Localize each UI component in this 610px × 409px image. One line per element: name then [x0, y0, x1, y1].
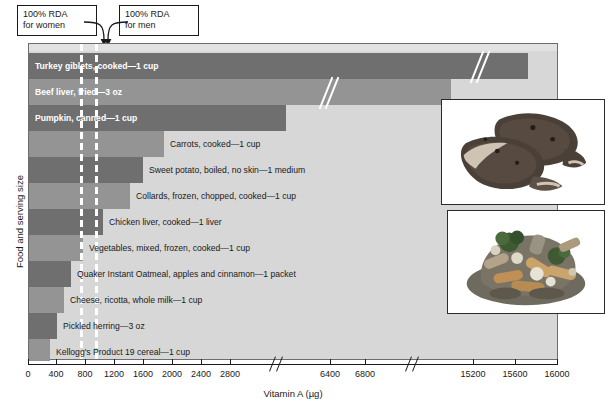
- rda-callout-men-line1: 100% RDA: [125, 9, 193, 20]
- plot-top-strip: [29, 44, 557, 51]
- x-tick-label-1600: 1600: [133, 369, 153, 379]
- bar-label-pickled-herring: Pickled herring—3 oz: [63, 321, 145, 331]
- x-tick-6400: [330, 359, 331, 364]
- x-tick-1600: [143, 359, 144, 364]
- y-axis-title: Food and serving size: [14, 175, 25, 268]
- x-axis-line: [28, 364, 558, 365]
- bar-label-collards: Collards, frozen, chopped, cooked—1 cup: [136, 191, 296, 201]
- bar-label-quaker-instant-oatmeal: Quaker Instant Oatmeal, apples and cinna…: [77, 269, 296, 279]
- vitamin-a-bar-chart-figure: 100% RDA for women 100% RDA for men: [0, 0, 610, 409]
- mixed-vegetables-photo: [447, 210, 605, 314]
- x-tick-label-16000: 16000: [544, 369, 569, 379]
- x-tick-label-6400: 6400: [320, 369, 340, 379]
- x-tick-label-2400: 2400: [191, 369, 211, 379]
- rda-arrow-men: [100, 16, 130, 46]
- x-tick-label-400: 400: [48, 369, 63, 379]
- bar-label-sweet-potato: Sweet potato, boiled, no skin—1 medium: [149, 165, 305, 175]
- bar-sweet-potato: [29, 157, 143, 183]
- liver-photo-image: [442, 100, 604, 204]
- x-tick-1200: [114, 359, 115, 364]
- x-tick-label-15600: 15600: [502, 369, 527, 379]
- x-tick-400: [56, 359, 57, 364]
- x-tick-2800: [230, 359, 231, 364]
- bar-label-product-19-cereal: Kellogg's Product 19 cereal—1 cup: [56, 347, 190, 357]
- bar-chicken-liver: [29, 209, 103, 235]
- liver-photo: [441, 99, 605, 205]
- bar-label-mixed-vegetables: Vegetables, mixed, frozen, cooked—1 cup: [89, 243, 250, 253]
- x-axis-break-1: [268, 356, 286, 372]
- x-tick-label-2000: 2000: [162, 369, 182, 379]
- bar-pickled-herring: [29, 313, 57, 339]
- x-tick-800: [85, 359, 86, 364]
- x-tick-label-15200: 15200: [460, 369, 485, 379]
- x-tick-2400: [201, 359, 202, 364]
- x-tick-label-0: 0: [25, 369, 30, 379]
- x-axis-break-2: [404, 356, 422, 372]
- x-tick-15600: [515, 359, 516, 364]
- x-tick-label-1200: 1200: [104, 369, 124, 379]
- bar-ricotta-cheese: [29, 287, 64, 313]
- bar-label-chicken-liver: Chicken liver, cooked—1 liver: [109, 217, 222, 227]
- bar-label-pumpkin: Pumpkin, canned—1 cup: [35, 113, 137, 123]
- x-tick-2000: [172, 359, 173, 364]
- bar-label-carrots: Carrots, cooked—1 cup: [170, 139, 260, 149]
- rda-callout-women-line2: for women: [23, 20, 91, 31]
- bar-product-19-cereal: [29, 339, 50, 361]
- bar-label-turkey-giblets: Turkey giblets, cooked—1 cup: [35, 61, 159, 71]
- bar-mixed-vegetables: [29, 235, 83, 261]
- x-tick-label-800: 800: [77, 369, 92, 379]
- mixed-vegetables-photo-image: [448, 211, 604, 313]
- rda-callout-women-line1: 100% RDA: [23, 9, 91, 20]
- x-axis-title: Vitamin A (µg): [233, 388, 353, 399]
- bar-label-beef-liver: Beef liver, fried—3 oz: [35, 87, 122, 97]
- rda-callout-men-line2: for men: [125, 20, 193, 31]
- x-tick-label-2800: 2800: [220, 369, 240, 379]
- x-tick-16000: [557, 359, 558, 364]
- x-tick-6800: [365, 359, 366, 364]
- x-tick-label-6800: 6800: [355, 369, 375, 379]
- x-tick-0: [28, 359, 29, 364]
- bar-label-ricotta-cheese: Cheese, ricotta, whole milk—1 cup: [70, 295, 202, 305]
- bar-quaker-instant-oatmeal: [29, 261, 71, 287]
- rda-callout-men: 100% RDA for men: [119, 5, 199, 36]
- x-tick-15200: [473, 359, 474, 364]
